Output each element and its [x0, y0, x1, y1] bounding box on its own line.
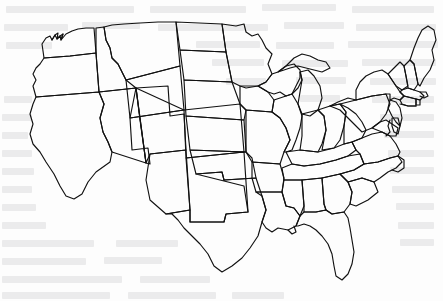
state-michigan-upper: [278, 54, 330, 72]
scanned-map-page: United States Outline Map Black-line out…: [0, 0, 443, 301]
state-oregon: [33, 53, 99, 97]
state-nebraska: [184, 80, 246, 120]
state-south-dakota: [180, 50, 232, 82]
state-georgia: [322, 174, 352, 214]
state-rhode-island: [416, 99, 420, 105]
state-arizona: [146, 150, 190, 214]
state-idaho: [96, 27, 136, 92]
state-pennsylvania: [330, 94, 390, 132]
state-arkansas: [252, 162, 284, 192]
state-north-carolina: [340, 156, 402, 182]
state-missouri: [246, 110, 290, 164]
state-vermont: [388, 62, 408, 90]
state-maine: [410, 26, 436, 86]
state-nevada: [99, 88, 146, 163]
state-florida: [296, 210, 354, 280]
state-new-mexico: [186, 152, 248, 222]
state-new-york: [356, 70, 404, 100]
state-kansas: [186, 116, 246, 152]
long-island: [400, 104, 416, 106]
state-virginia: [352, 132, 400, 164]
state-illinois: [272, 94, 302, 152]
state-tennessee: [282, 154, 364, 180]
state-mississippi: [282, 180, 304, 216]
state-utah-outline: [136, 86, 186, 163]
chesapeake-bay: [386, 120, 390, 136]
state-montana: [104, 22, 180, 80]
state-iowa: [240, 86, 274, 112]
state-west-virginia: [340, 104, 366, 144]
state-michigan-lower: [298, 70, 322, 116]
state-utah: [130, 88, 184, 164]
state-north-dakota: [176, 22, 226, 52]
state-texas: [166, 172, 266, 272]
state-california: [30, 92, 112, 199]
state-wisconsin: [258, 64, 302, 96]
state-minnesota: [222, 24, 272, 88]
us-states-outline-map: [0, 0, 443, 301]
state-indiana: [300, 110, 326, 152]
state-louisiana: [256, 192, 300, 232]
